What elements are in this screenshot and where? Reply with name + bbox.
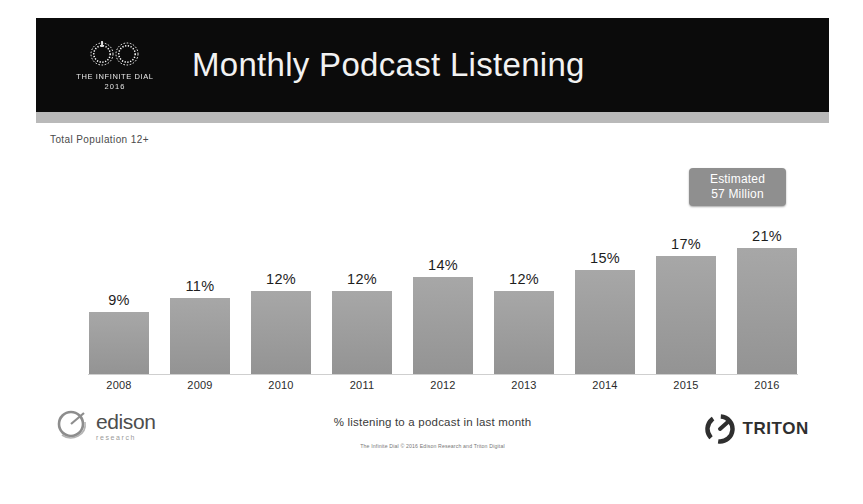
callout-line-2: 57 Million — [711, 187, 764, 202]
bar-column: 14% — [412, 228, 474, 375]
bar-column: 21% — [736, 228, 798, 375]
bar-value-label: 15% — [590, 250, 620, 266]
triton-name: TRITON — [742, 419, 809, 439]
edison-logo-text: edison research — [96, 411, 155, 441]
bar-2009 — [170, 298, 230, 375]
edison-logo-icon — [54, 408, 94, 444]
chart-baseline — [88, 374, 798, 375]
x-tick-label: 2010 — [250, 379, 312, 391]
x-tick-label: 2011 — [331, 379, 393, 391]
population-label: Total Population 12+ — [50, 134, 149, 145]
edison-subtitle: research — [96, 434, 155, 441]
bar-column: 9% — [88, 228, 150, 375]
edison-logo: edison research — [54, 408, 155, 444]
edison-name: edison — [96, 411, 155, 432]
infinite-dial-logo: THE INFINITE DIAL 2016 — [56, 39, 174, 90]
x-tick-label: 2008 — [88, 379, 150, 391]
slide: THE INFINITE DIAL 2016 Monthly Podcast L… — [36, 18, 829, 476]
bar-value-label: 12% — [509, 271, 539, 287]
estimated-callout: Estimated 57 Million — [689, 168, 786, 206]
infinity-dial-logo-icon — [87, 39, 143, 69]
bar-2008 — [89, 312, 149, 375]
bar-chart: 9% 11% 12% 12% 14% 12% — [88, 228, 798, 393]
bar-column: 12% — [331, 228, 393, 375]
bar-value-label: 21% — [752, 228, 782, 244]
triton-logo-icon — [705, 414, 735, 444]
bar-2015 — [656, 256, 716, 375]
bar-value-label: 17% — [671, 236, 701, 252]
bar-value-label: 12% — [266, 271, 296, 287]
bar-2014 — [575, 270, 635, 375]
x-axis-labels: 2008 2009 2010 2011 2012 2013 2014 2015 … — [88, 377, 798, 393]
bar-value-label: 12% — [347, 271, 377, 287]
x-tick-label: 2013 — [493, 379, 555, 391]
logo-year: 2016 — [104, 82, 125, 91]
bar-value-label: 14% — [428, 257, 458, 273]
callout-line-1: Estimated — [710, 172, 765, 187]
bar-column: 15% — [574, 228, 636, 375]
bar-2010 — [251, 291, 311, 375]
triton-logo: TRITON — [705, 414, 809, 444]
page-title: Monthly Podcast Listening — [192, 46, 585, 84]
bar-2011 — [332, 291, 392, 375]
bar-2013 — [494, 291, 554, 375]
header-underline-band — [36, 112, 829, 123]
bar-column: 11% — [169, 228, 231, 375]
x-tick-label: 2014 — [574, 379, 636, 391]
x-tick-label: 2016 — [736, 379, 798, 391]
bar-column: 17% — [655, 228, 717, 375]
x-tick-label: 2009 — [169, 379, 231, 391]
bar-2016 — [737, 248, 797, 375]
bar-column: 12% — [493, 228, 555, 375]
bar-value-label: 11% — [186, 278, 215, 294]
slide-header: THE INFINITE DIAL 2016 Monthly Podcast L… — [36, 18, 829, 112]
x-tick-label: 2012 — [412, 379, 474, 391]
x-tick-label: 2015 — [655, 379, 717, 391]
bar-2012 — [413, 277, 473, 375]
logo-caption: THE INFINITE DIAL — [76, 72, 153, 81]
bars-container: 9% 11% 12% 12% 14% 12% — [88, 228, 798, 375]
bar-value-label: 9% — [108, 292, 130, 308]
bar-column: 12% — [250, 228, 312, 375]
